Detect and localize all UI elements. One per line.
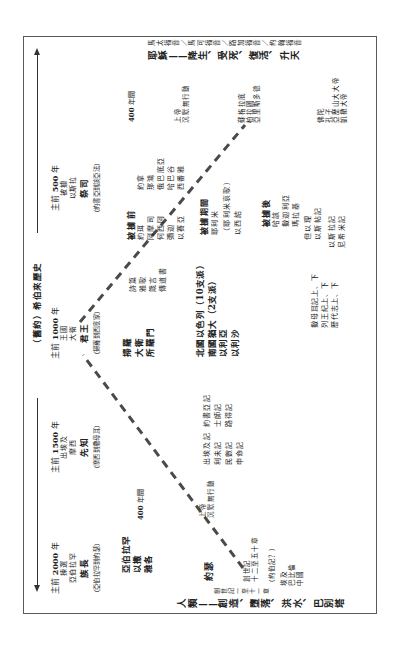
list-item: 俄巴底亞	[156, 157, 166, 190]
list-item: 沉默無行動	[208, 479, 216, 518]
era-year-label: 主前 1000 年	[50, 273, 60, 393]
era-role: 君王	[78, 273, 91, 393]
list-item: 亞伯拉罕	[121, 535, 132, 573]
rotated-page: （舊約）希伯來歷史 主前 2000 年 揀選 亞伯拉罕 族長 （亞伯拉罕到約瑟）…	[0, 0, 398, 647]
list-item: 彌迦	[166, 215, 176, 240]
era-person: 以斯拉	[69, 128, 78, 248]
era-year-number: 500	[50, 176, 60, 193]
list-item: 埃及	[280, 563, 288, 586]
list-item: 民數記	[224, 432, 235, 465]
list-item: 以利亞	[218, 260, 230, 357]
list-item: 列王紀上、下	[320, 273, 330, 328]
list-item: 以撒	[132, 535, 143, 573]
list-item: 約拿	[136, 157, 146, 190]
era-role: 先知	[78, 387, 91, 507]
era-year-suffix: 年	[51, 421, 60, 429]
greek-philosophers-list: 蘇格拉底 柏拉圖 亞里斯多德	[239, 84, 262, 123]
after-exile-prophets: 哈該 撒迦利亞 瑪拉基	[271, 194, 301, 227]
list-item: 北國以色列（10支派）	[195, 260, 207, 357]
era-year-number: 2000	[50, 553, 60, 575]
list-item: 那鴻	[146, 157, 156, 190]
list-item: 撒迦利亞	[281, 194, 291, 227]
list-item: 箴言	[148, 267, 158, 293]
era-year-prefix: 主前	[51, 457, 60, 473]
joseph-label: 約瑟	[204, 561, 215, 581]
divided-kingdom-list: 北國以色列（10支派） 南國猶大（2支派） 以利亞 以利沙	[195, 260, 241, 357]
timeline-start-label: 人類——創造、墮落、洪水、巴別塔	[177, 598, 346, 609]
list-item: 約珥	[136, 215, 146, 240]
before-exile-prophets-col1: 約珥 阿摩司 何西阿 彌迦 以賽亞	[136, 215, 186, 240]
silence-egypt-years: 400 年間	[136, 489, 146, 520]
during-exile-prophets: 耶利米 （耶利米哀歌） 以西結	[210, 177, 245, 235]
era-span: （摩西到撒母耳）	[91, 387, 102, 507]
list-item: 以利沙	[230, 260, 242, 357]
era-year-number: 1000	[50, 318, 60, 340]
list-item: 以斯拉記	[327, 215, 337, 248]
list-item: 凱撒大帝	[341, 76, 349, 123]
era-year-suffix: 年	[51, 307, 60, 315]
list-item: 歷代志上、下	[330, 273, 340, 328]
list-item: 出埃及記	[202, 432, 213, 465]
kingdom-history-books-list: 撒母耳記上、下 列王紀上、下 歷代志上、下	[310, 273, 340, 328]
list-item: 撒母耳記上、下	[310, 273, 320, 328]
era-person: 大衛	[69, 273, 78, 393]
list-item: 傳道書	[158, 267, 168, 293]
years-number: 400	[136, 505, 145, 520]
after-exile-header: 被擄後	[261, 199, 271, 228]
era-role: 族長	[78, 508, 91, 628]
list-item: 十二至五十章	[251, 536, 259, 582]
before-exile-header: 被擄前	[127, 209, 136, 241]
genesis-later-reference: 創世記 十二至五十章	[243, 536, 259, 582]
list-item: 雅各	[143, 535, 154, 573]
era-span: （掃羅到西底家）	[91, 273, 102, 393]
era-span: （約書亞到該亞法）	[91, 128, 102, 248]
job-note: （約伯記？）	[268, 544, 276, 586]
era-event: 王國	[60, 273, 69, 393]
list-item: 以西結	[233, 177, 245, 235]
list-item: 阿摩司	[146, 215, 156, 240]
list-item: 何西阿	[156, 215, 166, 240]
list-item: （耶利米哀歌）	[222, 177, 234, 235]
list-item: 路得記	[224, 394, 235, 427]
era-year-prefix: 主前	[51, 578, 60, 594]
exile-books-list: 但以理 以斯帖記	[303, 207, 323, 240]
patriarchs-list: 亞伯拉罕 以撒 雅各	[121, 535, 154, 573]
era-year-number: 1500	[50, 432, 60, 454]
years-number: 400	[127, 107, 136, 122]
list-item: 掃羅	[122, 328, 134, 357]
silence-intertestament-note: 上帝 沉默無行動	[175, 84, 190, 123]
era-1000bc: 主前 1000 年 王國 大衛 君王 （掃羅到西底家）	[50, 273, 102, 393]
list-item: 約書亞記	[202, 394, 213, 427]
list-item: 利未記	[213, 432, 224, 465]
list-item: 申命記	[235, 432, 246, 465]
list-item: 南國猶大（2支派）	[207, 260, 219, 357]
contemporary-nations-list: 埃及 巴比倫 中國	[280, 563, 304, 586]
silence-intertestament-years: 400 年間	[127, 91, 137, 122]
list-item: 所羅門	[145, 328, 157, 357]
return-books-list: 以斯拉記 尼希米記	[327, 215, 347, 248]
era-year-label: 主前 1500 年	[50, 387, 60, 507]
timeline-end-label: 耶穌——降生、受死、復活、升天	[148, 50, 300, 61]
world-figures-list: 佛陀 孔子 亞歷山大大帝 凱撒大帝	[318, 76, 348, 123]
timeline-start-reference: 創世記一至十一章	[214, 587, 270, 594]
era-year-suffix: 年	[51, 165, 60, 173]
list-item: 以斯帖記	[313, 207, 323, 240]
list-item: 雅歌	[138, 267, 148, 293]
list-item: 但以理	[303, 207, 313, 240]
list-item: 沉默無行動	[183, 84, 191, 123]
years-unit: 年間	[137, 489, 145, 503]
kings-list: 掃羅 大衛 所羅門	[122, 328, 157, 357]
list-item: 哈該	[271, 194, 281, 227]
years-unit: 年間	[128, 91, 136, 105]
before-exile-prophets-col2: 約拿 那鴻 俄巴底亞 哈巴谷 西番雅	[136, 157, 186, 190]
list-item: 尼希米記	[337, 215, 347, 248]
list-item: 大衛	[134, 328, 146, 357]
list-item: 中國	[296, 563, 304, 586]
list-item: 巴比倫	[288, 563, 296, 586]
era-year-label: 主前 500 年	[50, 128, 60, 248]
era-event: 被擄	[60, 128, 69, 248]
era-span: （亞伯拉罕到約瑟）	[91, 508, 102, 628]
list-item: 亞里斯多德	[254, 84, 262, 123]
list-item: 哈巴谷	[166, 157, 176, 190]
silence-egypt-note: 上帝 沉默無行動	[200, 479, 215, 518]
